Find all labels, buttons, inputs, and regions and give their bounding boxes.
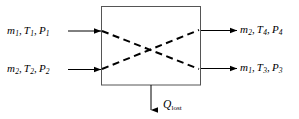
- inlet-1-label: m1,T1,P1: [7, 24, 50, 38]
- outlet-3-pressure-subscript: 3: [279, 66, 283, 75]
- heat-loss-symbol: Q: [163, 98, 172, 110]
- inlet-2-mass-flow-symbol: m: [7, 62, 15, 74]
- diagram-canvas: [0, 0, 299, 119]
- heat-loss-subscript: lost: [172, 104, 182, 112]
- inlet-2-pressure-subscript: 2: [46, 67, 50, 76]
- outlet-3-pressure-symbol: P: [272, 61, 279, 73]
- control-volume-boundary: [102, 7, 201, 86]
- outlet-4-label: m2,T4,P4: [240, 23, 283, 37]
- outlet-4-pressure-subscript: 4: [279, 28, 283, 37]
- outlet-3-label: m1,T3,P3: [240, 61, 283, 75]
- inlet-1-pressure-subscript: 1: [46, 29, 50, 38]
- heat-loss-label: Qlost: [163, 98, 182, 112]
- inlet-2-label: m2,T2,P2: [7, 62, 50, 76]
- heat-exchanger-control-volume-figure: m1,T1,P1 m2,T2,P2 m2,T4,P4 m1,T3,P3 Qlos…: [0, 0, 299, 119]
- inlet-2-pressure-symbol: P: [39, 62, 46, 74]
- inlet-1-pressure-symbol: P: [39, 24, 46, 36]
- outlet-3-mass-flow-symbol: m: [240, 61, 248, 73]
- inlet-1-mass-flow-symbol: m: [7, 24, 15, 36]
- outlet-4-pressure-symbol: P: [272, 23, 279, 35]
- outlet-4-mass-flow-symbol: m: [240, 23, 248, 35]
